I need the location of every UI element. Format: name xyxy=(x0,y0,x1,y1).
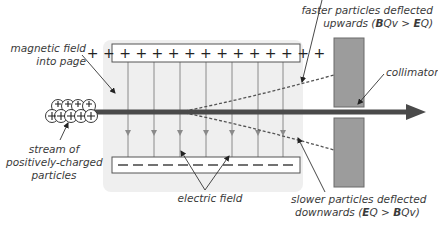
symbol-gt: > xyxy=(378,206,393,218)
faster-label-line1: faster particles deflected xyxy=(270,4,433,17)
symbol-gt: > xyxy=(398,17,413,29)
positive-plate-symbols: + + + + + + + + + + + + + + + xyxy=(87,45,325,61)
symbol-Qv: Qv xyxy=(383,17,397,29)
slower-label-line1: slower particles deflected xyxy=(291,193,437,206)
slower-prefix: downwards ( xyxy=(295,206,362,218)
magnetic-field-label-line2: into page xyxy=(10,55,86,68)
magnetic-field-label-line1: magnetic field xyxy=(10,42,86,55)
collimator-top xyxy=(334,38,364,107)
symbol-Qv: Qv) xyxy=(401,206,420,218)
magnetic-field-label: magnetic field into page xyxy=(10,42,86,68)
beam-arrowhead xyxy=(406,104,426,120)
electric-field-label: electric field xyxy=(160,192,260,205)
collimator-label: collimator xyxy=(386,66,438,79)
stream-label-line3: particles xyxy=(6,169,102,182)
stream-label-line2: positively-charged xyxy=(6,156,102,169)
stream-label-line1: stream of xyxy=(6,143,102,156)
faster-label-line2: upwards (BQv > EQ) xyxy=(270,17,433,30)
symbol-Q: Q xyxy=(369,206,377,218)
slower-particles-label: slower particles deflected downwards (EQ… xyxy=(291,193,437,219)
collimator-bottom xyxy=(334,118,364,187)
faster-prefix: upwards ( xyxy=(323,17,375,29)
stream-label: stream of positively-charged particles xyxy=(6,143,102,182)
faster-particles-label: faster particles deflected upwards (BQv … xyxy=(270,4,433,30)
slower-label-line2: downwards (EQ > BQv) xyxy=(291,206,437,219)
symbol-E: E xyxy=(413,17,420,29)
symbol-B: B xyxy=(393,206,401,218)
symbol-Q: Q) xyxy=(421,17,433,29)
